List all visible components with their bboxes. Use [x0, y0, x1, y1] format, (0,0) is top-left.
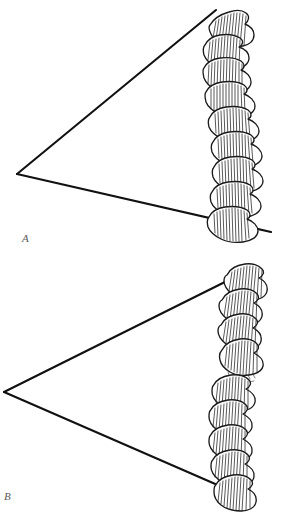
panel-b-vertebral-column-upper	[218, 264, 267, 380]
illustration-canvas: .ink { stroke:#1a1a1a; fill:none; stroke…	[0, 0, 308, 514]
panel-a-label: A	[22, 232, 29, 244]
panel-b-group	[4, 264, 267, 511]
panel-a-group	[17, 10, 271, 242]
panel-b-upper-ray	[4, 268, 253, 392]
panel-b-label: B	[4, 490, 11, 502]
panel-a-vertebral-column	[203, 11, 263, 243]
figure-root: .ink { stroke:#1a1a1a; fill:none; stroke…	[0, 0, 308, 514]
vertebra-break-upper	[220, 339, 264, 380]
vertebra	[214, 475, 256, 511]
panel-a-upper-ray	[17, 10, 216, 174]
panel-b-vertebral-column-lower	[209, 375, 256, 511]
